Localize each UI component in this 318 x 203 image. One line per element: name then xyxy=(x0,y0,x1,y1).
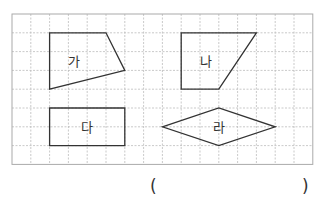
answer-close-paren: ) xyxy=(302,176,309,196)
shape-label-da: 다 xyxy=(81,120,93,135)
answer-open-paren: ( xyxy=(150,176,157,196)
answer-blank[interactable] xyxy=(162,176,302,198)
shape-grid-figure: 가나다라 xyxy=(0,0,318,203)
shape-label-ga: 가 xyxy=(68,54,80,69)
shape-label-na: 나 xyxy=(200,54,212,69)
shape-label-ra: 라 xyxy=(213,120,225,135)
